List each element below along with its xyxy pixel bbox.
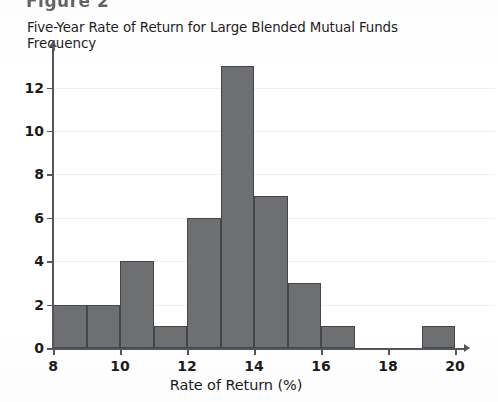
histogram-bar (120, 261, 154, 348)
histogram-bar (87, 305, 121, 348)
x-tick-label: 16 (311, 358, 330, 374)
gridline (53, 131, 495, 132)
histogram-bar (254, 196, 288, 348)
x-axis-line (47, 348, 467, 350)
y-tick-label: 2 (34, 297, 44, 313)
histogram-bar (288, 283, 322, 348)
y-tick-label: 8 (34, 166, 44, 182)
y-tick-label: 12 (25, 80, 44, 96)
x-tick-label: 14 (244, 358, 263, 374)
chart-title: Five-Year Rate of Return for Large Blend… (27, 20, 398, 35)
histogram-bar (187, 218, 221, 348)
histogram-bar (422, 326, 456, 348)
histogram-bar (154, 326, 188, 348)
y-axis-arrow-icon (49, 41, 57, 47)
y-axis-line (52, 45, 54, 348)
y-axis-label: Frequency (27, 36, 96, 51)
x-tick-label: 12 (177, 358, 196, 374)
x-axis-arrow-icon (464, 344, 470, 352)
y-tick-label: 4 (34, 253, 44, 269)
x-tick-label: 18 (378, 358, 397, 374)
x-tick-label: 20 (445, 358, 464, 374)
figure-header: Figure 2 (26, 0, 109, 11)
plot-inner: 024681012 8101214161820 (53, 55, 455, 348)
x-axis-label: Rate of Return (%) (0, 377, 498, 393)
y-tick-label: 0 (34, 340, 44, 356)
plot-area: 024681012 8101214161820 (53, 55, 455, 348)
figure-page: Figure 2 Five-Year Rate of Return for La… (0, 0, 498, 402)
histogram-bar (221, 66, 255, 348)
histogram-bar (321, 326, 355, 348)
y-tick-label: 6 (34, 210, 44, 226)
gridline (53, 174, 495, 175)
x-axis-label-text: Rate of Return (%) (170, 377, 302, 393)
gridline (53, 88, 495, 89)
y-tick-label: 10 (25, 123, 44, 139)
histogram-bar (53, 305, 87, 348)
x-tick-label: 10 (110, 358, 129, 374)
x-tick-label: 8 (48, 358, 58, 374)
